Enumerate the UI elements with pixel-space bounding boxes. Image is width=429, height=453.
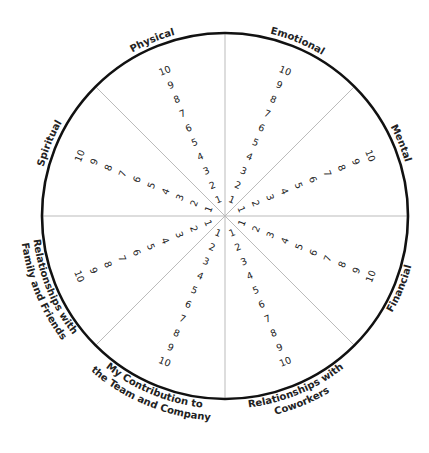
scale-number: 10 [363,269,378,284]
scale-number: 7 [116,169,128,179]
scale-number: 6 [184,298,194,310]
scale-number: 6 [257,122,267,134]
scale-number: 3 [239,255,249,267]
scale-number: 9 [350,157,362,167]
scale-number: 9 [274,341,284,353]
scale-number: 1 [213,226,223,238]
scale-number: 1 [235,218,247,228]
scale-number: 4 [245,269,255,281]
scale-number: 10 [157,354,172,369]
scale-number: 7 [178,107,188,119]
scale-number: 7 [116,254,128,264]
scale-number: 7 [321,169,333,179]
scale-number: 5 [145,242,157,252]
scale-number: 3 [173,230,185,240]
scale-number: 2 [188,198,200,208]
scale-number: 9 [274,79,284,91]
scale-number: 8 [172,93,182,105]
scale-number: 2 [188,224,200,234]
scale-number: 5 [145,180,157,190]
scale-number: 4 [278,236,290,246]
wheel-diagram: 1234567891012345678910123456789101234567… [0,0,429,453]
scale-number: 1 [235,204,247,214]
scale-number: 5 [189,136,199,148]
scale-number: 6 [131,175,143,185]
scale-number: 10 [363,148,378,163]
scale-number: 5 [251,136,261,148]
scale-number: 8 [269,93,279,105]
scale-number: 2 [207,241,217,253]
scale-number: 7 [178,312,188,324]
scale-number: 2 [250,198,262,208]
scale-number: 5 [189,284,199,296]
scale-number: 9 [88,157,100,167]
scale-number: 3 [173,192,185,202]
scale-number: 6 [307,175,319,185]
scale-number: 9 [166,341,176,353]
scale-number: 2 [250,224,262,234]
scale-number: 10 [278,63,293,78]
scale-number: 8 [102,163,114,173]
scale-number: 6 [257,298,267,310]
scale-number: 4 [195,269,205,281]
scale-number: 4 [159,186,171,196]
scale-number: 8 [336,260,348,270]
scale-number: 4 [278,186,290,196]
scale-number: 5 [293,242,305,252]
category-label: Physical [128,26,176,54]
scale-number: 1 [202,218,214,228]
scale-number: 3 [239,164,249,176]
scale-number: 2 [233,179,243,191]
category-label: Spiritual [35,118,64,167]
scale-number: 1 [213,193,223,205]
scale-number: 2 [233,241,243,253]
scale-number: 4 [245,150,255,162]
scale-number: 8 [102,260,114,270]
scale-number: 9 [88,265,100,275]
scale-number: 5 [251,284,261,296]
scale-number: 4 [159,236,171,246]
scale-number: 6 [131,248,143,258]
scale-number: 4 [195,150,205,162]
scale-number: 3 [201,164,211,176]
scale-number: 7 [263,312,273,324]
scale-number: 1 [227,226,237,238]
scale-number: 6 [307,248,319,258]
scale-number: 1 [202,204,214,214]
scale-number: 3 [264,230,276,240]
scale-number: 1 [227,193,237,205]
scale-number: 8 [172,327,182,339]
scale-number: 3 [264,192,276,202]
scale-number: 8 [269,327,279,339]
scale-number: 10 [278,354,293,369]
spokes [42,33,408,399]
scale-number: 2 [207,179,217,191]
scale-number: 10 [157,63,172,78]
scale-number: 9 [166,79,176,91]
scale-number: 3 [201,255,211,267]
scale-number: 8 [336,163,348,173]
scale-number: 6 [184,122,194,134]
scale-number: 7 [263,107,273,119]
scale-number: 10 [72,148,87,163]
scale-number: 10 [72,269,87,284]
scale-number: 5 [293,180,305,190]
scale-number: 7 [321,254,333,264]
scale-number: 9 [350,265,362,275]
